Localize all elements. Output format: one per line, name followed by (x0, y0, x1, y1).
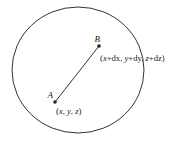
point-b-label: B (95, 34, 101, 44)
diagram-canvas: B A (x+dx, y+dy, z+dz) (x, y, z) (0, 0, 181, 142)
point-a-dot (53, 100, 57, 104)
coord-part: +dx, (107, 53, 125, 63)
point-b-dot (97, 44, 101, 48)
coord-part: ) (78, 106, 81, 116)
point-a-label: A (47, 90, 54, 100)
point-b-coordinates: (x+dx, y+dy, z+dz) (100, 53, 165, 63)
point-a-coordinates: (x, y, z) (56, 106, 81, 116)
coord-part: +dz) (149, 53, 165, 63)
segment-ab (55, 46, 99, 102)
coord-part: +dy, (128, 53, 145, 63)
